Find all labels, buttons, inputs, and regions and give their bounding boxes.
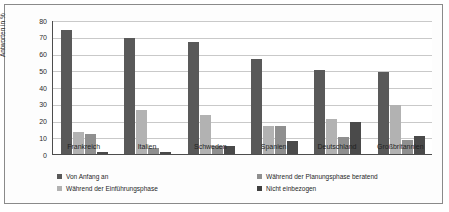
bar-group: [116, 21, 179, 154]
legend-swatch-icon: [257, 186, 262, 191]
y-tick-label: 30: [17, 101, 47, 108]
bar-group: [306, 21, 369, 154]
legend-label: Von Anfang an: [66, 173, 108, 180]
plot-area: [52, 21, 432, 155]
bar-group: [53, 21, 116, 154]
bar: [124, 38, 135, 154]
legend-item: Während der Planungsphase beratend: [257, 173, 427, 180]
legend-label: Während der Einführungsphase: [66, 185, 158, 192]
legend-label: Nicht einbezogen: [266, 185, 316, 192]
y-tick-label: 70: [17, 34, 47, 41]
bar: [314, 70, 325, 154]
bar: [97, 152, 108, 155]
legend-item: Von Anfang an: [57, 173, 257, 180]
bar-group: [370, 21, 433, 154]
y-tick-label: 60: [17, 51, 47, 58]
bar: [251, 59, 262, 154]
bar: [61, 30, 72, 154]
x-tick-label: Spanien: [242, 143, 305, 151]
chart-legend: Von Anfang anWährend der Planungsphase b…: [57, 173, 427, 192]
bar: [160, 152, 171, 155]
y-tick-label: 50: [17, 68, 47, 75]
x-tick-label: Deutschland: [305, 143, 368, 151]
legend-label: Während der Planungsphase beratend: [266, 173, 378, 180]
legend-item: Nicht einbezogen: [257, 185, 427, 192]
legend-item: Während der Einführungsphase: [57, 185, 257, 192]
bar: [188, 42, 199, 154]
x-tick-label: Italien: [115, 143, 178, 151]
legend-swatch-icon: [57, 174, 62, 179]
x-tick-label: Frankreich: [52, 143, 115, 151]
y-tick-label: 10: [17, 135, 47, 142]
bar-group: [243, 21, 306, 154]
y-tick-label: 20: [17, 118, 47, 125]
chart-frame: Antworten in % 80706050403020100 Frankre…: [4, 4, 443, 204]
legend-swatch-icon: [57, 186, 62, 191]
x-tick-label: Schweden: [179, 143, 242, 151]
y-tick-label: 80: [17, 18, 47, 25]
y-tick-label: 0: [17, 152, 47, 159]
y-axis-title: Antworten in %: [0, 13, 6, 57]
legend-swatch-icon: [257, 174, 262, 179]
y-tick-label: 40: [17, 85, 47, 92]
bar-group: [180, 21, 243, 154]
bar: [378, 72, 389, 154]
x-tick-label: Großbritannien: [369, 143, 432, 151]
